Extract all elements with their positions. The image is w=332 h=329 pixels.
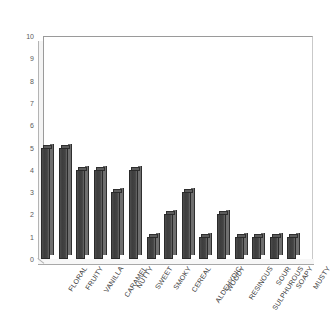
bar-front-face <box>129 170 138 259</box>
bar-side-face <box>68 144 72 256</box>
x-tick-label: MUSTY <box>312 265 332 290</box>
plot-floor <box>38 259 314 265</box>
bar-front-face <box>76 170 85 259</box>
bar <box>199 233 212 259</box>
bar-front-face <box>94 170 103 259</box>
bar-front-face <box>270 237 279 259</box>
bar <box>59 144 72 260</box>
bar-side-face <box>226 210 230 255</box>
bar-front-face <box>287 237 296 259</box>
bar <box>76 166 89 259</box>
y-tick-label: 1 <box>30 233 34 240</box>
bar-side-face <box>85 166 89 255</box>
bar-side-face <box>103 166 107 255</box>
bar <box>147 233 160 259</box>
bar-front-face <box>252 237 261 259</box>
x-tick-label: VANILLA <box>103 265 125 294</box>
bar <box>217 210 230 259</box>
bar-front-face <box>59 148 68 260</box>
y-tick-label: 5 <box>30 144 34 151</box>
bar-side-face <box>120 188 124 255</box>
bar <box>94 166 107 259</box>
bar-front-face <box>111 192 120 259</box>
bar <box>41 144 54 260</box>
x-tick-label: RESINOUS <box>247 265 274 301</box>
bar-side-face <box>173 210 177 255</box>
bar-front-face <box>41 148 50 260</box>
x-tick-label: CEREAL <box>190 265 212 293</box>
y-tick-label: 7 <box>30 99 34 106</box>
y-tick-label: 3 <box>30 189 34 196</box>
bar <box>182 188 195 259</box>
bar <box>164 210 177 259</box>
bar-front-face <box>182 192 191 259</box>
bar-front-face <box>235 237 244 259</box>
bar-front-face <box>147 237 156 259</box>
bar-side-face <box>138 166 142 255</box>
bar <box>252 233 265 259</box>
bar-front-face <box>199 237 208 259</box>
bar <box>111 188 124 259</box>
bar-side-face <box>191 188 195 255</box>
y-tick-label: 6 <box>30 122 34 129</box>
bar <box>129 166 142 259</box>
y-tick-label: 2 <box>30 211 34 218</box>
bar-front-face <box>217 214 226 259</box>
bar <box>287 233 300 259</box>
y-tick-label: 10 <box>26 33 34 40</box>
bar <box>270 233 283 259</box>
y-tick-label: 9 <box>30 55 34 62</box>
y-tick-label: 0 <box>30 256 34 263</box>
plot-area <box>38 36 313 259</box>
bar-front-face <box>164 214 173 259</box>
x-tick-label: SMOKY <box>172 265 192 291</box>
y-tick-label: 8 <box>30 77 34 84</box>
y-axis: 012345678910 <box>0 0 34 329</box>
y-tick-label: 4 <box>30 166 34 173</box>
bar <box>235 233 248 259</box>
bar-side-face <box>50 144 54 256</box>
